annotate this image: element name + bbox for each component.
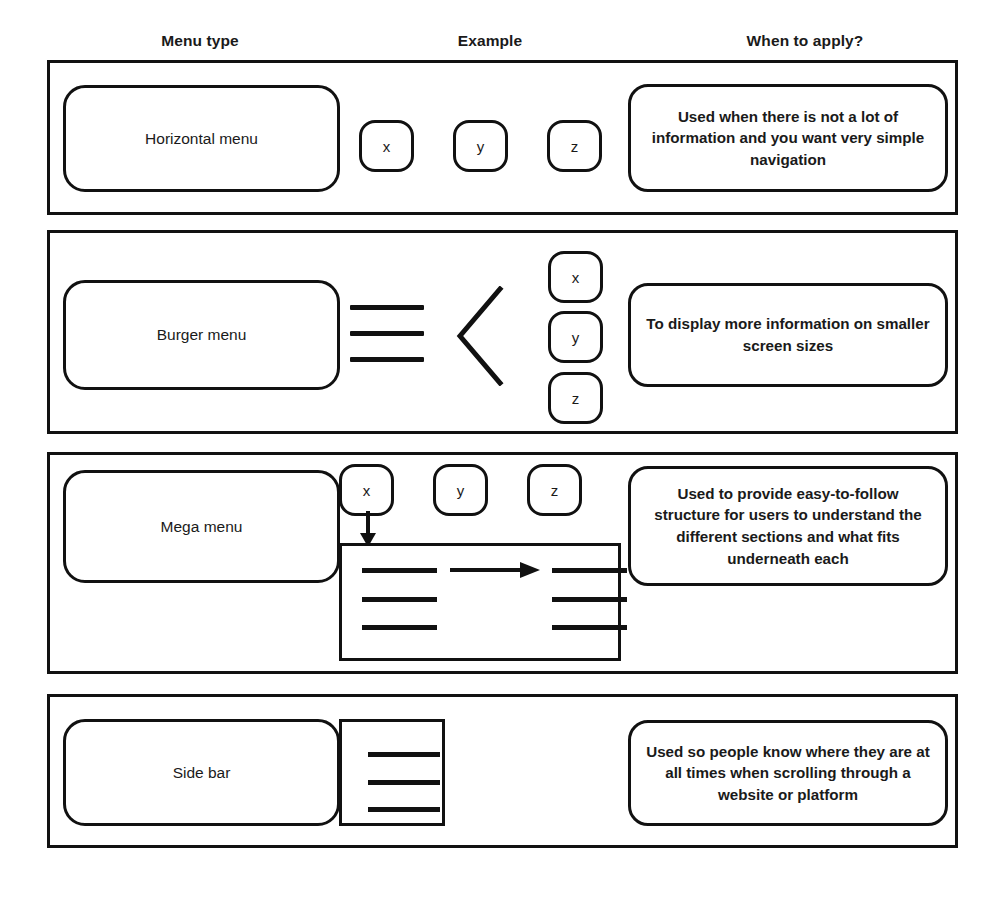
- menu-type-label-mega-menu: Mega menu: [63, 470, 340, 583]
- when-to-apply-text-horizontal-menu: Used when there is not a lot of informat…: [628, 84, 948, 192]
- keycap-x: x: [339, 464, 394, 516]
- table-row: Horizontal menu x y z Used when there is…: [47, 60, 958, 215]
- keycap-y: y: [433, 464, 488, 516]
- column-header-menu-type: Menu type: [90, 32, 310, 50]
- when-to-apply-text-burger-menu: To display more information on smaller s…: [628, 283, 948, 387]
- chevron-left-icon: [454, 286, 506, 386]
- keycap-x: x: [359, 120, 414, 172]
- menu-types-comparison-diagram: Menu type Example When to apply? Horizon…: [0, 0, 1005, 904]
- when-to-apply-text-side-bar: Used so people know where they are at al…: [628, 720, 948, 826]
- keycap-y: y: [548, 311, 603, 363]
- sidebar-panel-icon: [339, 719, 445, 826]
- column-header-when-to-apply: When to apply?: [690, 32, 920, 50]
- table-row: Burger menu x y z To display more inform…: [47, 230, 958, 434]
- when-to-apply-text-mega-menu: Used to provide easy-to-follow structure…: [628, 466, 948, 586]
- arrow-right-icon: [450, 560, 540, 580]
- keycap-z: z: [548, 372, 603, 424]
- keycap-x: x: [548, 251, 603, 303]
- column-headers: Menu type Example When to apply?: [0, 32, 1005, 58]
- table-row: Mega menu x y z Used to prov: [47, 452, 958, 674]
- keycap-z: z: [547, 120, 602, 172]
- keycap-y: y: [453, 120, 508, 172]
- menu-type-label-side-bar: Side bar: [63, 719, 340, 826]
- column-header-example: Example: [400, 32, 580, 50]
- menu-type-label-horizontal-menu: Horizontal menu: [63, 85, 340, 192]
- menu-type-label-burger-menu: Burger menu: [63, 280, 340, 390]
- hamburger-icon: [350, 305, 424, 365]
- keycap-z: z: [527, 464, 582, 516]
- arrow-down-icon: [355, 511, 381, 547]
- mega-menu-dropdown-panel: [339, 543, 621, 661]
- table-row: Side bar Used so people know where they …: [47, 694, 958, 848]
